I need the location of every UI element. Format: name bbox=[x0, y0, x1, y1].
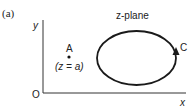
point-a-annotation: (z = a) bbox=[55, 61, 84, 72]
x-axis-label: x bbox=[179, 97, 186, 108]
contour-label: C bbox=[180, 42, 187, 53]
point-a-marker bbox=[67, 55, 70, 58]
contour-c bbox=[97, 31, 176, 85]
z-plane-diagram: (a) y x O z-plane A (z = a) C bbox=[0, 0, 191, 110]
point-a-label: A bbox=[66, 43, 73, 54]
origin-label: O bbox=[32, 89, 40, 100]
panel-label: (a) bbox=[2, 7, 15, 20]
plane-title: z-plane bbox=[116, 10, 149, 21]
y-axis-label: y bbox=[32, 20, 39, 31]
